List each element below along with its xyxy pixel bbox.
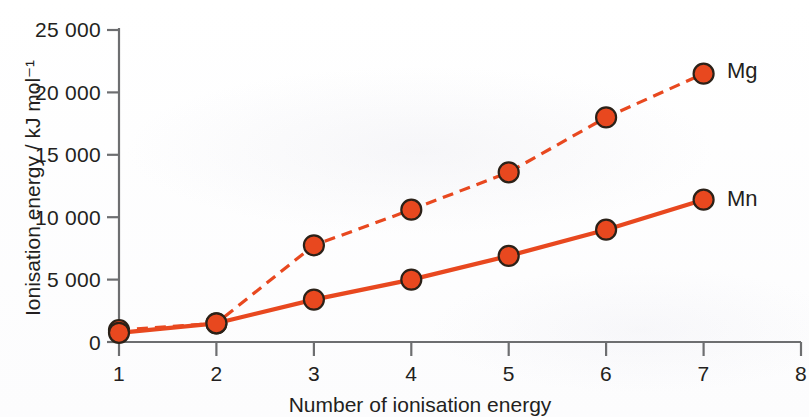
data-point-mg-7 <box>694 64 714 84</box>
x-tick-label-3: 3 <box>308 362 320 385</box>
x-tick-label-6: 6 <box>600 362 612 385</box>
y-tick-label-5000: 5 000 <box>47 268 101 291</box>
data-point-mn-6 <box>596 220 616 240</box>
y-tick-label-20000: 20 000 <box>35 81 101 104</box>
x-tick-label-2: 2 <box>210 362 222 385</box>
y-tick-label-25000: 25 000 <box>35 18 101 41</box>
data-point-mn-5 <box>499 246 519 266</box>
x-tick-label-1: 1 <box>113 362 125 385</box>
data-point-mg-3 <box>304 235 324 255</box>
y-axis-ticks <box>107 30 119 342</box>
x-axis-title: Number of ionisation energy <box>289 393 552 416</box>
data-point-mg-6 <box>596 107 616 127</box>
series-label-mn: Mn <box>727 186 758 211</box>
x-tick-label-5: 5 <box>503 362 515 385</box>
data-point-mn-1 <box>109 323 129 343</box>
y-tick-label-10000: 10 000 <box>35 206 101 229</box>
x-tick-label-8: 8 <box>795 362 807 385</box>
data-point-mn-2 <box>206 313 226 333</box>
x-axis-ticks <box>119 342 801 356</box>
chart-container: 0 5 000 10 000 15 000 20 000 25 000 1 2 … <box>0 0 809 417</box>
ionisation-energy-line-chart: 0 5 000 10 000 15 000 20 000 25 000 1 2 … <box>0 0 809 417</box>
y-axis-title: Ionisation energy / kJ mol⁻¹ <box>21 60 44 316</box>
data-point-mn-3 <box>304 290 324 310</box>
y-tick-label-0: 0 <box>89 331 101 354</box>
y-tick-label-15000: 15 000 <box>35 143 101 166</box>
x-tick-label-7: 7 <box>698 362 710 385</box>
data-point-mg-4 <box>401 200 421 220</box>
data-point-mn-7 <box>694 190 714 210</box>
data-point-mn-4 <box>401 270 421 290</box>
series-label-mg: Mg <box>727 58 758 83</box>
series-layer <box>109 64 714 343</box>
data-point-mg-5 <box>499 162 519 182</box>
x-tick-label-4: 4 <box>405 362 417 385</box>
